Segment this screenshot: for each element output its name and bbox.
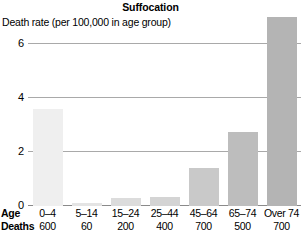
bar — [33, 109, 63, 206]
suffocation-bar-chart: Suffocation Death rate (per 100,000 in a… — [0, 0, 301, 239]
age-group-cell: Over 74 — [257, 207, 302, 219]
gridline-2 — [28, 151, 301, 152]
chart-title: Suffocation — [0, 1, 301, 13]
category-label-table: Age Deaths 0–46005–146015–2420025–444004… — [0, 206, 301, 239]
y-axis-caption: Death rate (per 100,000 in age group) — [2, 16, 171, 29]
deaths-count-cell: 700 — [257, 220, 302, 232]
y-axis-tick-label: 4 — [0, 92, 24, 103]
gridline-6 — [28, 43, 301, 44]
bar — [267, 17, 297, 206]
bar — [150, 197, 180, 206]
age-row-label: Age — [1, 207, 20, 219]
bar — [111, 198, 141, 206]
bar — [228, 132, 258, 206]
y-axis-tick-label: 2 — [0, 146, 24, 157]
bar — [189, 168, 219, 206]
plot-area: 0246 — [28, 36, 301, 206]
gridline-4 — [28, 97, 301, 98]
y-axis-tick-label: 6 — [0, 38, 24, 49]
